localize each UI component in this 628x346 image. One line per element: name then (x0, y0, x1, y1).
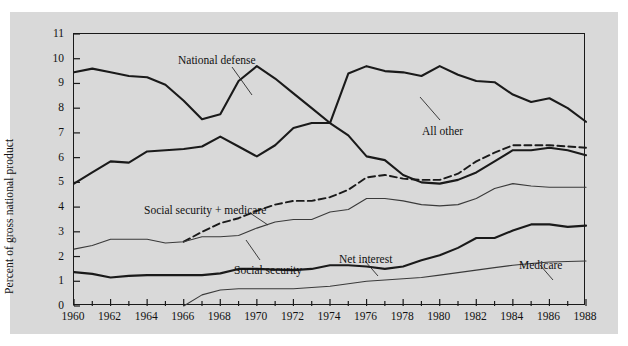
annotation-label: Net interest (339, 253, 392, 265)
figure-panel: Percent of gross national product 012345… (10, 12, 618, 334)
annotation-label: Medicare (519, 259, 562, 271)
series-annotations: National defenseAll otherSocial security… (10, 12, 618, 334)
annotation-label: Social security + medicare (144, 204, 266, 216)
annotation-label: Social security (234, 264, 302, 276)
annotation-leaders (10, 12, 618, 334)
annotation-label: All other (422, 125, 463, 137)
annotation-label: National defense (178, 54, 256, 66)
